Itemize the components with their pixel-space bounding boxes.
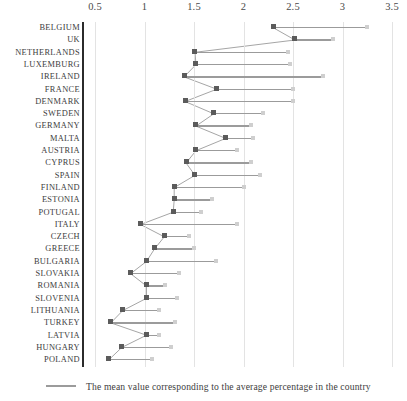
bar-end-marker <box>291 99 295 103</box>
country-label: LATVIA <box>0 331 80 340</box>
bar-end-marker <box>177 271 181 275</box>
mean-value-marker <box>214 86 219 91</box>
chart-row <box>82 22 407 34</box>
mean-value-marker <box>193 122 198 127</box>
country-label: ESTONIA <box>0 195 80 204</box>
mean-value-marker <box>192 49 197 54</box>
chart-row <box>82 133 407 145</box>
chart-container: 0.511.522.533.5 BELGIUMUKNETHERLANDSLUXE… <box>0 0 407 401</box>
value-bar <box>295 39 333 40</box>
value-bar <box>273 27 367 28</box>
bar-end-marker <box>187 234 191 238</box>
country-label: POTUGAL <box>0 208 80 217</box>
chart-row <box>82 34 407 46</box>
value-bar <box>174 187 243 188</box>
mean-value-marker <box>193 147 198 152</box>
bar-end-marker <box>169 345 173 349</box>
country-label: ROMANIA <box>0 281 80 290</box>
bar-end-marker <box>261 111 265 115</box>
bar-end-marker <box>258 173 262 177</box>
value-bar <box>196 64 290 65</box>
chart-row <box>82 194 407 206</box>
mean-value-marker <box>144 282 149 287</box>
country-label: POLAND <box>0 355 80 364</box>
bar-end-marker <box>365 25 369 29</box>
country-label: GREECE <box>0 244 80 253</box>
value-bar <box>195 175 260 176</box>
bar-end-marker <box>286 50 290 54</box>
chart-row <box>82 256 407 268</box>
bar-end-marker <box>235 222 239 226</box>
x-tick-label: 2.5 <box>286 1 300 12</box>
mean-value-marker <box>106 356 111 361</box>
country-label: FINLAND <box>0 183 80 192</box>
value-bar <box>141 224 237 225</box>
country-label: SPAIN <box>0 171 80 180</box>
x-tick-label: 1.5 <box>187 1 201 12</box>
value-bar <box>184 76 323 77</box>
value-bar <box>111 322 175 323</box>
value-bar <box>185 101 293 102</box>
mean-value-marker <box>182 73 187 78</box>
plot-area <box>82 22 407 367</box>
mean-value-marker <box>144 258 149 263</box>
country-label: TURKEY <box>0 318 80 327</box>
mean-value-marker <box>223 135 228 140</box>
bar-end-marker <box>291 87 295 91</box>
chart-row <box>82 96 407 108</box>
legend: The mean value corresponding to the aver… <box>0 376 407 396</box>
country-label: IRELAND <box>0 72 80 81</box>
mean-value-marker <box>144 295 149 300</box>
chart-row <box>82 120 407 132</box>
x-tick-label: 1 <box>142 1 147 12</box>
chart-row <box>82 280 407 292</box>
country-label: HUNGARY <box>0 343 80 352</box>
chart-row <box>82 231 407 243</box>
country-label: SWEDEN <box>0 109 80 118</box>
mean-value-marker <box>172 184 177 189</box>
country-label: NETHERLANDS <box>0 48 80 57</box>
x-tick-label: 0.5 <box>88 1 102 12</box>
country-label: MALTA <box>0 134 80 143</box>
bar-end-marker <box>214 259 218 263</box>
mean-value-marker <box>171 209 176 214</box>
value-bar <box>226 138 254 139</box>
bar-end-marker <box>249 123 253 127</box>
mean-value-marker <box>292 36 297 41</box>
value-bar <box>196 125 251 126</box>
chart-row <box>82 71 407 83</box>
mean-value-marker <box>119 344 124 349</box>
x-tick-label: 2 <box>241 1 246 12</box>
chart-row <box>82 293 407 305</box>
chart-row <box>82 157 407 169</box>
bar-end-marker <box>288 62 292 66</box>
value-bar <box>122 347 172 348</box>
chart-row <box>82 47 407 59</box>
bar-end-marker <box>150 357 154 361</box>
value-bar <box>109 359 153 360</box>
bar-end-marker <box>157 333 161 337</box>
chart-row <box>82 268 407 280</box>
value-bar <box>146 298 177 299</box>
chart-row <box>82 59 407 71</box>
mean-value-marker <box>184 159 189 164</box>
country-label: SLOVENIA <box>0 294 80 303</box>
chart-row <box>82 342 407 354</box>
value-bar <box>131 273 180 274</box>
bar-end-marker <box>163 283 167 287</box>
country-label: GERMANY <box>0 121 80 130</box>
country-label: DENMARK <box>0 97 80 106</box>
value-bar <box>164 236 189 237</box>
country-label: UK <box>0 35 80 44</box>
country-label: SLOVAKIA <box>0 269 80 278</box>
mean-value-marker <box>172 196 177 201</box>
chart-row <box>82 317 407 329</box>
mean-value-marker <box>152 245 157 250</box>
value-bar <box>214 113 264 114</box>
chart-row <box>82 305 407 317</box>
country-label: FRANCE <box>0 85 80 94</box>
country-label: CYPRUS <box>0 158 80 167</box>
mean-value-marker <box>193 61 198 66</box>
country-label-column: BELGIUMUKNETHERLANDSLUXEMBURGIRELANDFRAN… <box>0 22 80 367</box>
chart-row <box>82 354 407 366</box>
